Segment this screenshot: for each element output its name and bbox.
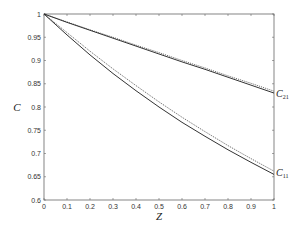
y-tick-label: 0.95	[27, 34, 41, 41]
x-tick-label: 0.1	[62, 203, 72, 210]
curve-label: C11	[276, 167, 288, 179]
y-tick-label: 0.6	[31, 197, 41, 204]
y-tick-label: 0.65	[27, 173, 41, 180]
data-series	[44, 14, 274, 174]
x-tick-label: 0.3	[108, 203, 118, 210]
x-tick-label: 0.5	[154, 203, 164, 210]
x-tick-label: 0.9	[246, 203, 256, 210]
y-tick-label: 0.9	[31, 57, 41, 64]
y-tick-label: 0.75	[27, 127, 41, 134]
x-tick-label: 0.8	[223, 203, 233, 210]
x-tick-label: 1	[272, 203, 276, 210]
line-chart: 00.10.20.30.40.50.60.70.80.910.60.650.70…	[0, 0, 303, 235]
axis-ticks: 00.10.20.30.40.50.60.70.80.910.60.650.70…	[27, 11, 276, 211]
y-tick-label: 0.7	[31, 150, 41, 157]
x-tick-label: 0.7	[200, 203, 210, 210]
y-tick-label: 1	[37, 11, 41, 18]
series-line	[44, 14, 274, 93]
y-tick-label: 0.8	[31, 104, 41, 111]
x-tick-label: 0.4	[131, 203, 141, 210]
y-tick-label: 0.85	[27, 80, 41, 87]
series-line	[44, 14, 274, 171]
curve-label: C21	[276, 88, 289, 100]
x-axis-title: Z	[156, 210, 163, 222]
y-axis-title: C	[13, 101, 21, 113]
x-tick-label: 0	[42, 203, 46, 210]
series-line	[44, 14, 274, 91]
x-tick-label: 0.2	[85, 203, 95, 210]
curve-labels: C21C11	[276, 88, 289, 179]
series-line	[44, 14, 274, 174]
x-tick-label: 0.6	[177, 203, 187, 210]
